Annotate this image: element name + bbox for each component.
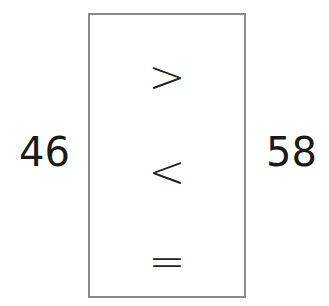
right-number: 58 — [266, 132, 317, 172]
equals-option[interactable]: = — [90, 240, 244, 284]
comparison-choice-box: > < = — [88, 13, 246, 298]
greater-than-option[interactable]: > — [90, 55, 244, 99]
left-number: 46 — [19, 132, 70, 172]
less-than-option[interactable]: < — [90, 150, 244, 194]
